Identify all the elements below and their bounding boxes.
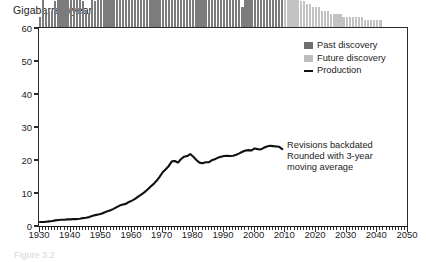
x-tick-mark-minor (389, 227, 390, 230)
x-tick-mark-major (315, 227, 316, 232)
x-tick-mark-minor (202, 227, 203, 230)
chart-bar (134, 0, 136, 27)
x-tick-mark-major (70, 227, 71, 232)
chart-bar (293, 0, 295, 27)
chart-bar (303, 1, 305, 27)
chart-bar (174, 0, 176, 27)
y-tick-label: 60 (10, 23, 32, 34)
chart-bar (272, 0, 274, 27)
x-tick-mark-minor (263, 227, 264, 230)
chart-bar (73, 0, 75, 27)
chart-bar (324, 11, 326, 28)
chart-bar (287, 0, 289, 27)
chart-bar (97, 0, 99, 27)
x-tick-mark-minor (174, 227, 175, 230)
chart-bar (180, 0, 182, 27)
chart-bar (327, 11, 329, 28)
chart-bar (220, 0, 222, 27)
chart-bar (112, 0, 114, 27)
x-tick-mark-minor (76, 227, 77, 230)
x-tick-mark-minor (198, 227, 199, 230)
chart-bar (349, 17, 351, 27)
chart-bar (201, 0, 203, 27)
x-tick-mark-minor (106, 227, 107, 230)
chart-bar (94, 1, 96, 27)
chart-bar (379, 20, 381, 27)
legend-swatch-icon-future (304, 55, 313, 62)
x-tick-mark-minor (358, 227, 359, 230)
legend-line-icon-production (304, 70, 313, 72)
x-tick-mark-minor (97, 227, 98, 230)
x-tick-mark-minor (91, 227, 92, 230)
x-tick-mark-minor (401, 227, 402, 230)
chart-bar (186, 0, 188, 27)
x-tick-mark-minor (146, 227, 147, 230)
chart-bar (290, 0, 292, 27)
x-tick-mark-minor (183, 227, 184, 230)
chart-bar (266, 0, 268, 27)
chart-bar (42, 0, 44, 27)
chart-bar (88, 14, 90, 27)
chart-bar (355, 17, 357, 27)
x-tick-mark-minor (177, 227, 178, 230)
x-tick-mark-minor (137, 227, 138, 230)
x-tick-mark-major (192, 227, 193, 232)
chart-bar (125, 0, 127, 27)
chart-bar (244, 0, 246, 27)
x-tick-mark-minor (149, 227, 150, 230)
x-tick-mark-major (407, 227, 408, 232)
x-tick-mark-minor (392, 227, 393, 230)
x-tick-mark-minor (60, 227, 61, 230)
x-tick-mark-minor (88, 227, 89, 230)
x-tick-mark-minor (324, 227, 325, 230)
chart-bar (149, 0, 151, 27)
chart-bar (183, 0, 185, 27)
x-tick-mark-minor (235, 227, 236, 230)
x-tick-mark-minor (128, 227, 129, 230)
chart-bar (300, 1, 302, 27)
chart-bar (250, 0, 252, 27)
x-tick-mark-minor (110, 227, 111, 230)
x-tick-mark-minor (333, 227, 334, 230)
chart-bar (235, 0, 237, 27)
chart-bar (91, 0, 93, 27)
x-tick-mark-minor (349, 227, 350, 230)
x-tick-mark-minor (238, 227, 239, 230)
y-tick-mark (34, 225, 38, 226)
x-tick-mark-major (39, 227, 40, 232)
y-tick-label: 10 (10, 188, 32, 199)
chart-bar (195, 0, 197, 27)
x-tick-mark-minor (355, 227, 356, 230)
x-tick-mark-minor (404, 227, 405, 230)
x-tick-mark-minor (364, 227, 365, 230)
chart-bar (48, 11, 50, 28)
chart-bar (208, 0, 210, 27)
x-tick-mark-minor (67, 227, 68, 230)
x-tick-mark-minor (220, 227, 221, 230)
x-tick-mark-minor (143, 227, 144, 230)
x-tick-mark-minor (343, 227, 344, 230)
y-tick-mark (34, 192, 38, 193)
x-tick-mark-minor (94, 227, 95, 230)
chart-bar (171, 0, 173, 27)
x-tick-mark-minor (269, 227, 270, 230)
x-tick-mark-minor (241, 227, 242, 230)
chart-bar (318, 7, 320, 27)
chart-bar (321, 11, 323, 28)
x-tick-mark-minor (275, 227, 276, 230)
x-tick-mark-minor (57, 227, 58, 230)
y-tick-mark (34, 60, 38, 61)
legend-label-past: Past discovery (317, 40, 377, 51)
x-tick-mark-major (254, 227, 255, 232)
x-tick-mark-minor (318, 227, 319, 230)
x-tick-mark-major (284, 227, 285, 232)
chart-bar (60, 0, 62, 27)
chart-bar (162, 0, 164, 27)
x-tick-mark-minor (79, 227, 80, 230)
legend-item-past-discovery: Past discovery (304, 40, 386, 51)
chart-bar (315, 7, 317, 27)
x-tick-mark-minor (266, 227, 267, 230)
x-tick-mark-minor (306, 227, 307, 230)
x-tick-mark-minor (171, 227, 172, 230)
x-tick-mark-major (131, 227, 132, 232)
